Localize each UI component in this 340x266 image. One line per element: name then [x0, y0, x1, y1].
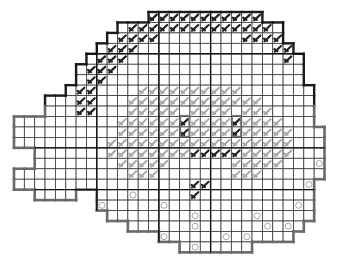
- grid-cell[interactable]: [55, 127, 65, 137]
- grid-cell[interactable]: [200, 169, 210, 179]
- grid-cell[interactable]: [190, 158, 200, 168]
- grid-cell[interactable]: [273, 75, 283, 85]
- grid-cell[interactable]: [221, 158, 231, 168]
- grid-cell[interactable]: [66, 106, 76, 116]
- grid-cell[interactable]: [159, 54, 169, 64]
- grid-cell[interactable]: [242, 190, 252, 200]
- grid-cell[interactable]: [273, 64, 283, 74]
- grid-cell[interactable]: [190, 33, 200, 43]
- grid-cell[interactable]: [211, 242, 221, 252]
- grid-cell[interactable]: [314, 148, 324, 158]
- grid-cell[interactable]: [149, 43, 159, 53]
- grid-cell[interactable]: [107, 127, 117, 137]
- grid-cell[interactable]: [24, 127, 34, 137]
- grid-cell[interactable]: [86, 148, 96, 158]
- grid-cell[interactable]: [314, 127, 324, 137]
- grid-cell[interactable]: [211, 75, 221, 85]
- grid-cell[interactable]: [24, 137, 34, 147]
- grid-cell[interactable]: [231, 231, 241, 241]
- grid-cell[interactable]: [180, 179, 190, 189]
- grid-cell[interactable]: [118, 64, 128, 74]
- grid-cell[interactable]: [169, 231, 179, 241]
- grid-cell[interactable]: [200, 190, 210, 200]
- grid-cell[interactable]: [169, 190, 179, 200]
- grid-cell[interactable]: [221, 242, 231, 252]
- grid-cell[interactable]: [86, 117, 96, 127]
- grid-cell[interactable]: [24, 169, 34, 179]
- grid-cell[interactable]: [304, 106, 314, 116]
- grid-cell[interactable]: [293, 85, 303, 95]
- grid-cell[interactable]: [169, 221, 179, 231]
- grid-cell[interactable]: [231, 33, 241, 43]
- grid-cell[interactable]: [231, 221, 241, 231]
- grid-cell[interactable]: [66, 96, 76, 106]
- grid-cell[interactable]: [55, 96, 65, 106]
- grid-cell[interactable]: [252, 231, 262, 241]
- grid-cell[interactable]: [221, 64, 231, 74]
- grid-cell[interactable]: [45, 117, 55, 127]
- grid-cell[interactable]: [128, 221, 138, 231]
- grid-cell[interactable]: [180, 231, 190, 241]
- grid-cell[interactable]: [24, 117, 34, 127]
- grid-cell[interactable]: [283, 106, 293, 116]
- grid-cell[interactable]: [14, 117, 24, 127]
- grid-cell[interactable]: [76, 64, 86, 74]
- grid-cell[interactable]: [169, 169, 179, 179]
- grid-cell[interactable]: [283, 231, 293, 241]
- grid-cell[interactable]: [293, 158, 303, 168]
- grid-cell[interactable]: [252, 54, 262, 64]
- grid-cell[interactable]: [283, 85, 293, 95]
- grid-cell[interactable]: [273, 169, 283, 179]
- grid-cell[interactable]: [107, 190, 117, 200]
- grid-cell[interactable]: [200, 242, 210, 252]
- grid-cell[interactable]: [231, 43, 241, 53]
- grid-cell[interactable]: [97, 127, 107, 137]
- grid-cell[interactable]: [76, 137, 86, 147]
- grid-cell[interactable]: [55, 179, 65, 189]
- grid-cell[interactable]: [138, 43, 148, 53]
- grid-cell[interactable]: [262, 54, 272, 64]
- grid-cell[interactable]: [231, 242, 241, 252]
- grid-cell[interactable]: [128, 64, 138, 74]
- grid-cell[interactable]: [283, 179, 293, 189]
- grid-cell[interactable]: [200, 221, 210, 231]
- grid-cell[interactable]: [14, 127, 24, 137]
- grid-cell[interactable]: [180, 221, 190, 231]
- grid-cell[interactable]: [35, 137, 45, 147]
- grid-cell[interactable]: [200, 231, 210, 241]
- grid-cell[interactable]: [190, 200, 200, 210]
- grid-cell[interactable]: [293, 75, 303, 85]
- grid-cell[interactable]: [14, 137, 24, 147]
- grid-cell[interactable]: [252, 200, 262, 210]
- grid-cell[interactable]: [97, 179, 107, 189]
- grid-cell[interactable]: [293, 211, 303, 221]
- grid-cell[interactable]: [138, 179, 148, 189]
- grid-cell[interactable]: [262, 64, 272, 74]
- grid-cell[interactable]: [55, 137, 65, 147]
- grid-cell[interactable]: [304, 137, 314, 147]
- grid-cell[interactable]: [180, 75, 190, 85]
- grid-cell[interactable]: [35, 127, 45, 137]
- grid-cell[interactable]: [66, 127, 76, 137]
- grid-cell[interactable]: [107, 75, 117, 85]
- grid-cell[interactable]: [14, 169, 24, 179]
- grid-cell[interactable]: [283, 158, 293, 168]
- grid-cell[interactable]: [262, 96, 272, 106]
- grid-cell[interactable]: [231, 54, 241, 64]
- grid-cell[interactable]: [138, 54, 148, 64]
- grid-cell[interactable]: [200, 75, 210, 85]
- grid-cell[interactable]: [221, 200, 231, 210]
- grid-cell[interactable]: [66, 169, 76, 179]
- grid-cell[interactable]: [86, 179, 96, 189]
- grid-cell[interactable]: [211, 231, 221, 241]
- grid-cell[interactable]: [242, 54, 252, 64]
- grid-cell[interactable]: [262, 179, 272, 189]
- grid-cell[interactable]: [138, 190, 148, 200]
- grid-cell[interactable]: [221, 190, 231, 200]
- grid-cell[interactable]: [45, 137, 55, 147]
- grid-cell[interactable]: [45, 169, 55, 179]
- grid-cell[interactable]: [138, 64, 148, 74]
- grid-cell[interactable]: [221, 221, 231, 231]
- grid-cell[interactable]: [180, 54, 190, 64]
- grid-cell[interactable]: [200, 211, 210, 221]
